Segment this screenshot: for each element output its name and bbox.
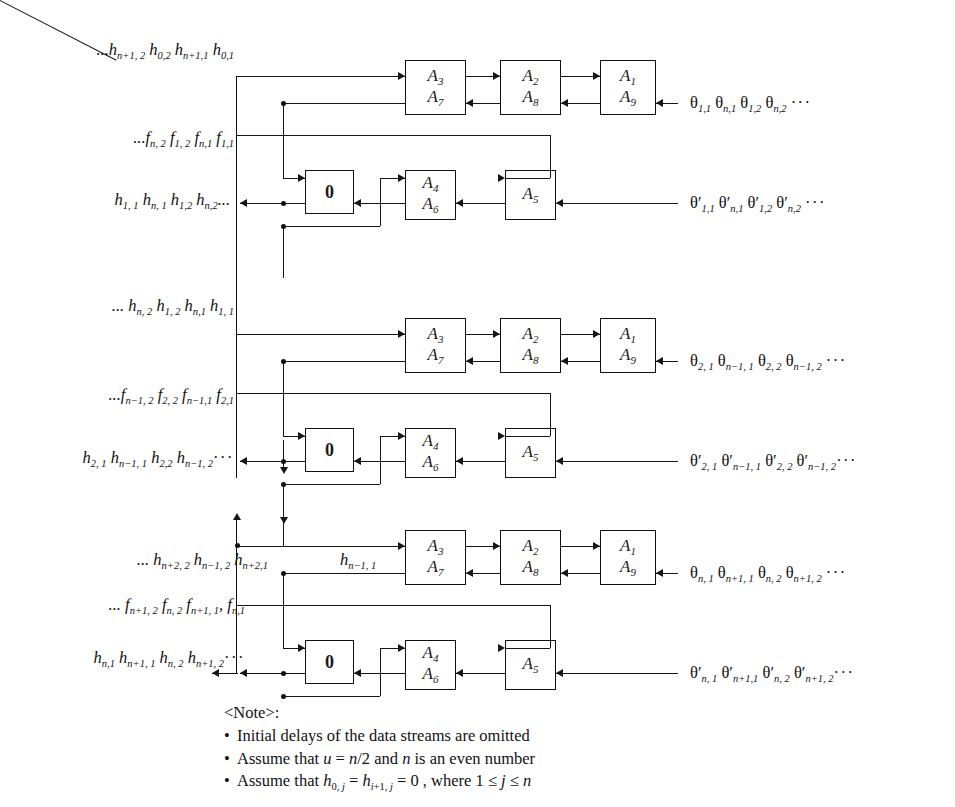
block2-wire-zero-to-bus <box>240 461 305 462</box>
cell-upper-label: A4 <box>423 432 439 453</box>
block3-stream-h-top: ... hn+2, 2 hn−1, 2 hn+2,1 <box>137 550 268 571</box>
block2-wire-loopback <box>283 484 380 485</box>
note-item-3: •Assume that h0, j = hi+1, j = 0 , where… <box>224 770 535 795</box>
diagram-canvas: A3A7A2A8A1A90A4A6A5θ1,1 θn,1 θ1,2 θn,2 ·… <box>0 0 955 807</box>
block1-arrow-h-to-a3 <box>398 72 405 80</box>
block1-dot-zero-out <box>281 201 286 206</box>
block3-arrow-a3-to-a2 <box>493 542 500 550</box>
block3-wire-a7-feedback-down <box>283 573 284 648</box>
block3-arrow-a2-to-a3 <box>466 569 473 577</box>
block1-wire-loopback <box>283 226 380 227</box>
block1-wire-a5-to-a4 <box>456 203 505 204</box>
block1-arrow-thetaprime-in <box>556 199 563 207</box>
cell-lower-label: A9 <box>620 558 636 579</box>
cell-label: 0 <box>325 183 334 202</box>
block2-arrow-f-to-a5 <box>498 432 505 440</box>
note-item-2: •Assume that u = n/2 and n is an even nu… <box>224 748 535 771</box>
block1-wire-f-to-a5 <box>505 178 550 179</box>
cell-upper-label: A3 <box>428 537 444 558</box>
block2-cell-a3-a7: A3A7 <box>405 318 466 373</box>
cell-upper-label: A3 <box>428 325 444 346</box>
block2-stream-h-out: h2, 1 hn−1, 1 h2,2 hn−1, 2··· <box>83 448 234 469</box>
block2-stream-f: ...fn−1, 2 f2, 2 fn−1,1 f2,1 <box>108 385 234 406</box>
block2-wire-f-to-a5 <box>505 436 550 437</box>
cell-upper-label: A4 <box>423 174 439 195</box>
block3-cell-zero: 0 <box>305 640 354 684</box>
block3-stream-f: ... fn+1, 2 fn, 2 fn+1, 1, fn,1 <box>109 595 245 616</box>
block3-cell-a2-a8: A2A8 <box>500 530 561 585</box>
block2-wire-h-to-a3 <box>236 334 405 335</box>
arrow-bus-lower-top <box>233 513 241 520</box>
block2-arrow-loopback-to-a4 <box>398 432 405 440</box>
cell-upper-label: A2 <box>523 67 539 88</box>
block2-arrow-zero-to-bus <box>240 457 247 465</box>
main-data-bus-upper <box>236 76 237 478</box>
cell-upper-label: A1 <box>620 67 636 88</box>
cell-lower-label: A7 <box>428 558 444 579</box>
cell-lower-label: A7 <box>428 88 444 109</box>
block1-stream-h-top: ...hn+1, 2 h0,2 hn+1,1 h0,1 <box>96 40 234 61</box>
block2-cell-a1-a9: A1A9 <box>600 318 656 373</box>
block2-stream-h-top: ... hn, 2 h1, 2 hn,1 h1, 1 <box>112 296 234 317</box>
block3-stream-theta-top: θn, 1 θn+1, 1 θn, 2 θn+1, 2 ··· <box>690 563 847 584</box>
block2-wire-thetaprime-in <box>556 461 678 462</box>
block2-cell-a4-a6: A4A6 <box>405 428 456 478</box>
block1-arrow-to-zero <box>298 174 305 182</box>
block1-cell-a2-a8: A2A8 <box>500 60 561 115</box>
block2-wire-a7-feedback <box>283 361 405 362</box>
cell-lower-label: A6 <box>423 195 439 216</box>
note-block: <Note>:•Initial delays of the data strea… <box>224 702 535 795</box>
block3-arrow-a1-to-a2 <box>561 569 568 577</box>
block1-arrow-zero-to-bus <box>240 199 247 207</box>
cell-upper-label: A1 <box>620 325 636 346</box>
block1-stream-f: ...fn, 2 f1, 2 fn,1 f1,1 <box>133 128 234 149</box>
block3-dot-zero-out <box>281 671 286 676</box>
block3-arrow-f-to-a5 <box>498 644 505 652</box>
block2-stream-theta-top: θ2, 1 θn−1, 1 θ2, 2 θn−1, 2 ··· <box>690 351 847 372</box>
block3-wire-f-down <box>550 605 551 648</box>
cell-lower-label: A8 <box>523 558 539 579</box>
block3-wire-a5-to-a4 <box>456 673 505 674</box>
block1-wire-f-down <box>550 135 551 178</box>
block1-arrow-a4-to-zero <box>354 199 361 207</box>
cell-lower-label: A9 <box>620 346 636 367</box>
block3-arrow-a2-to-a1 <box>593 542 600 550</box>
cell-lower-label: A8 <box>523 88 539 109</box>
cell-upper-label: A2 <box>523 537 539 558</box>
block2-wire-a5-to-a4 <box>456 461 505 462</box>
block1-arrow-loopback-to-a4 <box>398 174 405 182</box>
block3-cell-a3-a7: A3A7 <box>405 530 466 585</box>
block1-wire-thetaprime-in <box>556 203 678 204</box>
cell-lower-label: A6 <box>423 665 439 686</box>
cell-lower-label: A8 <box>523 346 539 367</box>
cell-label: 0 <box>325 653 334 672</box>
block2-arrow-a5-to-a4 <box>456 457 463 465</box>
block2-arrow-theta-in <box>656 357 663 365</box>
block3-wire-zero-to-bus <box>240 673 305 674</box>
block3-arrow-loopback-to-a4 <box>398 644 405 652</box>
block3-cell-a1-a9: A1A9 <box>600 530 656 585</box>
cell-label: 0 <box>325 441 334 460</box>
block2-cell-a2-a8: A2A8 <box>500 318 561 373</box>
cell-lower-label: A9 <box>620 88 636 109</box>
cell-upper-label: A1 <box>620 537 636 558</box>
block1-arrow-a1-to-a2 <box>561 99 568 107</box>
wire-block1-loop-down <box>283 226 284 278</box>
cell-lower-label: A7 <box>428 346 444 367</box>
block1-wire-a7-feedback-down <box>283 103 284 178</box>
block2-arrow-a2-to-a3 <box>466 357 473 365</box>
block1-arrow-a2-to-a1 <box>593 72 600 80</box>
block2-arrow-a4-to-zero <box>354 457 361 465</box>
block3-arrow-a5-to-a4 <box>456 669 463 677</box>
cell-upper-label: A2 <box>523 325 539 346</box>
block3-arrow-theta-in <box>656 569 663 577</box>
block2-arrow-a2-to-a1 <box>593 330 600 338</box>
block1-wire-loopback-up <box>380 178 381 226</box>
block3-dot-a7-feedback <box>281 571 286 576</box>
block3-stream-h-top-2: hn−1, 1 <box>340 550 376 571</box>
block3-wire-loopback <box>283 696 380 697</box>
note-item-1: •Initial delays of the data streams are … <box>224 725 535 748</box>
block2-wire-f-down <box>550 393 551 436</box>
block1-arrow-a3-to-a2 <box>493 72 500 80</box>
block1-cell-a3-a7: A3A7 <box>405 60 466 115</box>
